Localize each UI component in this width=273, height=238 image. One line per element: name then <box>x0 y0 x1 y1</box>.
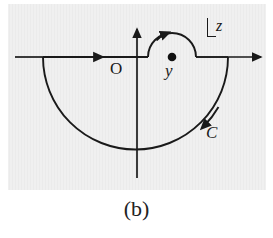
figure-container: z O y C (b) <box>0 0 273 238</box>
pole-dot-marker <box>168 53 177 62</box>
large-contour-arc-C <box>43 57 228 150</box>
origin-label: O <box>110 60 122 77</box>
z-plane-label: z <box>216 18 222 34</box>
z-plane-corner-bracket-icon <box>207 18 216 37</box>
figure-caption: (b) <box>0 196 273 222</box>
contour-label: C <box>206 124 217 141</box>
pole-label: y <box>165 62 173 79</box>
